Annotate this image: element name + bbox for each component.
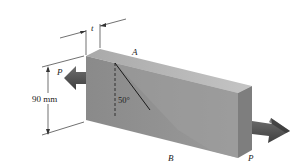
label-angle: 50° — [118, 95, 130, 105]
label-load-right: P — [247, 153, 254, 163]
load-arrow-left — [64, 66, 86, 90]
label-thickness: t — [91, 23, 94, 33]
label-load-left: P — [56, 67, 63, 77]
diagram-canvas: t 90 mm A B P P 50° — [0, 0, 305, 168]
bar-end-face — [238, 86, 252, 158]
label-height: 90 mm — [32, 94, 57, 104]
bar-body — [86, 49, 252, 158]
load-arrow-right — [252, 118, 290, 143]
label-point-a: A — [131, 47, 138, 57]
label-point-b: B — [168, 153, 174, 163]
dimension-thickness: t — [60, 19, 126, 55]
